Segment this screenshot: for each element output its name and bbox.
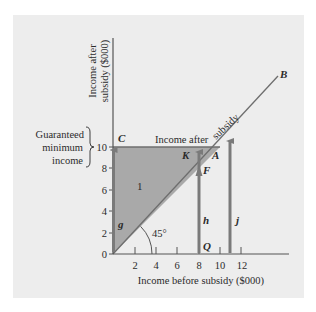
x-tick-8: 8 (196, 260, 201, 271)
curly-brace (86, 127, 94, 167)
guaranteed-label-line3: income (52, 155, 83, 166)
x-axis-label: Income before subsidy ($000) (138, 275, 265, 287)
point-label-c: C (118, 132, 126, 144)
y-axis-label-line1: Income after (87, 44, 98, 98)
point-label-a: A (211, 149, 219, 161)
x-tick-10: 10 (215, 260, 226, 271)
x-tick-6: 6 (174, 260, 179, 271)
arrow-label-j: j (234, 214, 240, 226)
curve-label-part1: Income after (155, 134, 209, 145)
curve-label-part2: subsidy (210, 111, 242, 141)
guaranteed-label-line1: Guaranteed (36, 129, 85, 140)
point-label-f: F (202, 164, 211, 176)
y-tick-8: 8 (102, 163, 107, 174)
subsidy-diagram-figure: 0 2 4 6 8 10 2 4 6 8 10 12 Income before… (0, 0, 316, 312)
y-axis-label-line2: subsidy ($000) (99, 39, 111, 102)
y-tick-0: 0 (102, 249, 107, 260)
x-tick-4: 4 (153, 260, 159, 271)
x-axis-ticks (135, 247, 241, 254)
angle-label: 45° (152, 228, 167, 239)
y-tick-2: 2 (102, 228, 107, 239)
guaranteed-label-line2: minimum (42, 142, 83, 153)
y-tick-4: 4 (102, 206, 108, 217)
point-label-b: B (279, 68, 287, 80)
angle-arc (141, 226, 152, 254)
region-label-1: 1 (137, 180, 143, 192)
point-label-q: Q (203, 240, 211, 252)
diagram-canvas: 0 2 4 6 8 10 2 4 6 8 10 12 Income before… (0, 0, 316, 312)
arrow-label-h: h (203, 214, 209, 226)
x-tick-2: 2 (132, 260, 137, 271)
point-label-k: K (181, 149, 190, 161)
arrow-label-g: g (117, 218, 124, 230)
x-tick-12: 12 (237, 260, 248, 271)
y-tick-6: 6 (102, 185, 107, 196)
y-tick-10: 10 (97, 142, 108, 153)
